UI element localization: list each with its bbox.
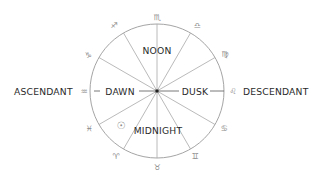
virgo-icon: ♍	[221, 50, 228, 59]
scorpio-icon: ♏	[153, 13, 161, 22]
midnight-label: MIDNIGHT	[134, 125, 183, 136]
sagittarius-icon: ♐	[110, 21, 117, 30]
capricorn-icon: ♑	[84, 51, 91, 60]
taurus-icon: ♉	[153, 163, 160, 172]
libra-icon: ♎	[193, 21, 200, 30]
zodiac-house-wheel-diagram: NOON MIDNIGHT DAWN DUSK ASCENDANT DESCEN…	[0, 0, 319, 183]
gemini-icon: ♊	[191, 152, 198, 161]
noon-label: NOON	[142, 45, 171, 56]
sun-icon: ☉	[117, 120, 126, 131]
leo-icon: ♌	[229, 87, 236, 96]
center-point	[156, 90, 159, 93]
ascendant-label: ASCENDANT	[14, 86, 73, 97]
cancer-icon: ♋	[220, 124, 227, 133]
pisces-icon: ♓	[85, 124, 92, 133]
aquarius-icon: ♒	[80, 87, 87, 96]
dusk-label: DUSK	[182, 86, 209, 97]
aries-icon: ♈	[112, 152, 119, 161]
dawn-label: DAWN	[105, 86, 134, 97]
descendant-label: DESCENDANT	[243, 86, 309, 97]
